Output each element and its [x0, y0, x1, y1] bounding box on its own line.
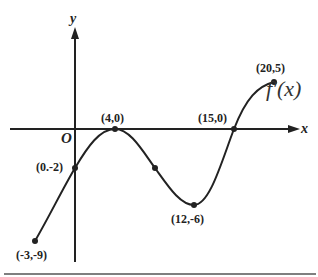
- point-4-0: [112, 126, 118, 132]
- chart-figure: y x O (4,0) (0.-2) (-3,-9) (12,-6) (15,0…: [0, 0, 318, 277]
- point-inflection: [152, 165, 158, 171]
- x-axis-arrow-icon: [288, 125, 300, 133]
- origin-label: O: [61, 131, 72, 146]
- label-4-0: (4,0): [101, 112, 124, 124]
- label-neg3-neg9: (-3,-9): [16, 249, 47, 261]
- y-axis-label: y: [70, 12, 76, 26]
- plot-svg: [0, 0, 318, 277]
- label-20-5: (20,5): [256, 62, 285, 74]
- point-15-0: [231, 126, 237, 132]
- y-axis-arrow-icon: [71, 27, 79, 39]
- point-neg3-neg9: [32, 238, 38, 244]
- label-15-0: (15,0): [198, 112, 227, 124]
- label-12-neg6: (12,-6): [171, 213, 204, 225]
- label-0-neg2: (0.-2): [36, 161, 63, 173]
- derivative-curve: [35, 82, 274, 241]
- point-0-neg2: [72, 165, 78, 171]
- x-axis-label: x: [301, 122, 308, 136]
- point-12-neg6: [191, 202, 197, 208]
- function-label: f′(x): [266, 78, 301, 100]
